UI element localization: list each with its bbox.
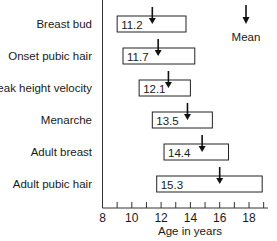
chart-row: Menarche13.5: [41, 103, 213, 128]
legend: Mean: [232, 5, 261, 43]
tick-label: 10: [125, 211, 139, 225]
mean-value: 13.5: [156, 115, 178, 127]
x-axis-label: Age in years: [158, 225, 222, 237]
row-label: Adult pubic hair: [13, 178, 92, 190]
mean-value: 15.3: [161, 179, 183, 191]
legend-mean-label: Mean: [232, 31, 261, 43]
tick-label: 18: [242, 211, 256, 225]
maturation-range-chart: Breast bud11.2Onset pubic hair11.7Peak h…: [0, 0, 277, 241]
mean-value: 11.7: [127, 51, 149, 63]
chart-row: Peak height velocity12.1: [0, 71, 190, 96]
x-axis-ticks: 81012141618: [99, 202, 263, 225]
row-label: Breast bud: [36, 18, 92, 30]
chart-row: Onset pubic hair11.7: [8, 39, 195, 64]
tick-label: 8: [99, 211, 106, 225]
tick-label: 12: [154, 211, 168, 225]
row-label: Peak height velocity: [0, 82, 92, 94]
row-label: Menarche: [41, 114, 92, 126]
row-label: Adult breast: [31, 146, 93, 158]
chart-row: Adult breast14.4: [31, 135, 229, 160]
tick-label: 14: [184, 211, 198, 225]
chart-rows: Breast bud11.2Onset pubic hair11.7Peak h…: [0, 7, 262, 192]
mean-value: 12.1: [143, 83, 165, 95]
row-label: Onset pubic hair: [8, 50, 92, 62]
tick-label: 16: [213, 211, 227, 225]
legend-arrowhead-icon: [243, 17, 250, 24]
chart-row: Breast bud11.2: [36, 7, 186, 32]
mean-value: 14.4: [168, 147, 191, 159]
mean-value: 11.2: [121, 19, 143, 31]
chart-row: Adult pubic hair15.3: [13, 167, 262, 192]
